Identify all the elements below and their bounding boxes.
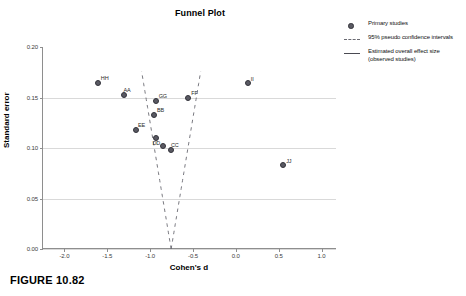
legend-solid-line-icon — [344, 49, 366, 57]
x-tick-label: 0.0 — [224, 253, 248, 259]
data-point-label: JJ — [286, 158, 291, 164]
legend-label-primary-studies: Primary studies — [368, 20, 464, 28]
funnel-plot-figure: Funnel Plot Standard error 0.000.050.100… — [0, 0, 466, 296]
gridline — [43, 249, 336, 250]
y-tick-label: 0.05 — [12, 196, 38, 202]
data-point-label: AA — [123, 87, 130, 93]
legend-label-pseudo-ci: 95% pseudo confidence intervals — [368, 34, 464, 42]
y-axis-title: Standard error — [2, 92, 11, 148]
data-point-label: CC — [171, 142, 179, 148]
y-tick-label: 0.20 — [12, 44, 38, 50]
data-point-label: BB — [157, 107, 164, 113]
legend-entry-pseudo-ci: 95% pseudo confidence intervals — [344, 34, 464, 44]
x-tick-label: -1.5 — [95, 253, 119, 259]
data-point-label: DD — [152, 140, 160, 146]
x-tick-mark — [64, 249, 65, 252]
figure-caption: FIGURE 10.82 — [10, 274, 85, 286]
data-point — [160, 143, 166, 149]
data-point-label: II — [251, 76, 254, 82]
legend-entry-effect-size: Estimated overall effect size (observed … — [344, 48, 464, 63]
x-tick-label: -2.0 — [52, 253, 76, 259]
x-axis-title: Cohen's d — [42, 263, 336, 272]
x-tick-mark — [107, 249, 108, 252]
legend-label-effect-size: Estimated overall effect size (observed … — [368, 48, 464, 63]
plot-area: 0.000.050.100.150.20 -2.0-1.5-1.0-0.50.0… — [42, 47, 336, 249]
x-tick-label: -0.5 — [181, 253, 205, 259]
x-tick-mark — [150, 249, 151, 252]
y-tick-label: 0.15 — [12, 95, 38, 101]
data-point-label: FF — [191, 90, 197, 96]
data-point-label: GG — [159, 93, 167, 99]
data-point-label: EE — [138, 122, 145, 128]
data-point — [153, 135, 159, 141]
chart-legend: Primary studies 95% pseudo confidence in… — [344, 20, 464, 67]
x-tick-mark — [279, 249, 280, 252]
chart-title: Funnel Plot — [120, 8, 280, 18]
y-tick-mark — [40, 249, 43, 250]
y-tick-label: 0.00 — [12, 246, 38, 252]
y-tick-label: 0.10 — [12, 145, 38, 151]
x-tick-mark — [193, 249, 194, 252]
x-tick-label: -1.0 — [138, 253, 162, 259]
x-tick-label: 1.0 — [310, 253, 334, 259]
x-tick-mark — [236, 249, 237, 252]
x-tick-label: 0.5 — [267, 253, 291, 259]
legend-entry-primary-studies: Primary studies — [344, 20, 464, 30]
x-tick-mark — [322, 249, 323, 252]
legend-dashed-line-icon — [344, 35, 366, 43]
data-point-label: HH — [101, 75, 109, 81]
legend-dot-icon — [344, 21, 366, 29]
pseudo-confidence-interval-lines — [43, 47, 337, 249]
